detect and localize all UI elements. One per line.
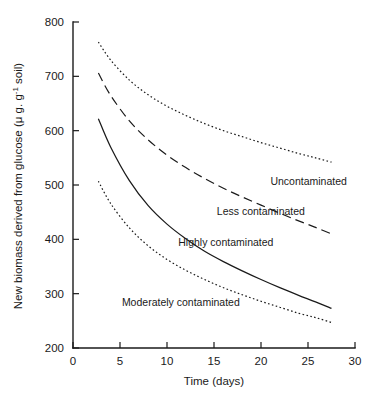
x-tick-label: 20: [255, 355, 268, 367]
chart-plot: 200300400500600700800 051015202530 Uncon…: [0, 0, 379, 400]
y-tick-label: 800: [45, 16, 64, 28]
chart-container: 200300400500600700800 051015202530 Uncon…: [0, 0, 379, 400]
y-tick-label: 600: [45, 125, 64, 137]
series-line-uncontaminated: [98, 42, 331, 162]
x-axis-tick-labels: 051015202530: [70, 355, 362, 367]
y-axis-title-group: New biomass derived from glucose (μ g. g…: [11, 63, 24, 310]
x-tick-label: 10: [161, 355, 174, 367]
y-tick-label: 500: [45, 179, 64, 191]
x-tick-label: 0: [70, 355, 76, 367]
x-tick-label: 5: [117, 355, 123, 367]
y-tick-label: 200: [45, 342, 64, 354]
series-label-highly-contaminated: Highly contaminated: [178, 236, 273, 248]
y-tick-label: 300: [45, 288, 64, 300]
x-tick-label: 30: [349, 355, 362, 367]
y-tick-label: 400: [45, 233, 64, 245]
y-axis-tick-labels: 200300400500600700800: [45, 16, 64, 354]
y-tick-label: 700: [45, 70, 64, 82]
y-axis-title: New biomass derived from glucose (μ g. g…: [11, 63, 24, 310]
x-axis-ticks: [73, 342, 355, 348]
y-axis-ticks: [73, 22, 79, 348]
x-tick-label: 25: [302, 355, 315, 367]
series-label-uncontaminated: Uncontaminated: [270, 175, 347, 187]
series-label-moderately-contaminated: Moderately contaminated: [122, 296, 240, 308]
x-axis-title: Time (days): [184, 375, 244, 387]
series-annotation-labels: UncontaminatedLess contaminatedHighly co…: [122, 175, 347, 308]
series-label-less-contaminated: Less contaminated: [217, 205, 305, 217]
x-tick-label: 15: [208, 355, 221, 367]
